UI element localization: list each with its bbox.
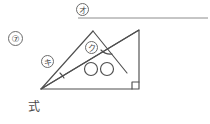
equal-tick-circle-right: [101, 63, 114, 76]
problem-number-badge: ⑦: [8, 31, 23, 46]
inner-triangle-right-edge: [93, 31, 127, 73]
equal-tick-circle-left: [85, 63, 98, 76]
circled-katakana-ku: ク: [85, 41, 98, 54]
work-prompt-label: 式: [28, 101, 40, 113]
right-angle-mark: [132, 82, 139, 89]
circled-katakana-o: オ: [76, 3, 89, 16]
worksheet-canvas: ⑦ オ キ ク 式: [0, 0, 210, 124]
hypotenuse-line: [41, 30, 139, 89]
circled-katakana-ki: キ: [41, 55, 54, 68]
